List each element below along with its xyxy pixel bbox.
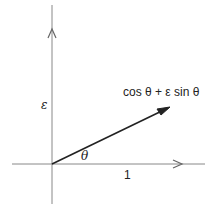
vector-line [52, 108, 168, 164]
diagram-canvas [0, 0, 217, 214]
unit-label: 1 [124, 168, 131, 182]
vector-label: cos θ + ε sin θ [123, 85, 199, 99]
angle-label: θ [81, 149, 88, 163]
vector-arrowhead-icon [157, 107, 170, 115]
vertical-axis-label: ε [41, 98, 47, 112]
